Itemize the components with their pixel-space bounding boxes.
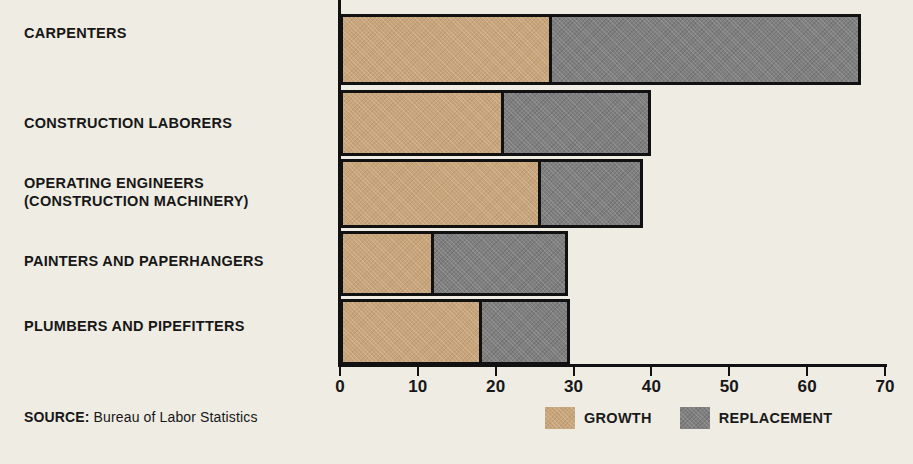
x-axis-tick-label: 10 — [408, 377, 427, 397]
stacked-bar-carpenters — [340, 14, 861, 85]
x-axis-tick-label: 0 — [335, 377, 345, 397]
source-note: SOURCE: Bureau of Labor Statistics — [24, 409, 258, 425]
plot-area: 010203040506070 — [338, 0, 887, 367]
stacked-bar-painters-and-paperhangers — [340, 231, 568, 296]
x-axis-tick — [339, 367, 341, 376]
replacement-swatch-icon — [680, 407, 710, 429]
bar-segment-growth — [343, 234, 431, 293]
x-axis-tick — [650, 367, 652, 376]
bar-segment-replacement — [549, 17, 857, 82]
bar-segment-replacement — [431, 234, 565, 293]
growth-swatch-icon — [545, 407, 575, 429]
category-label-plumbers-and-pipefitters: PLUMBERS AND PIPEFITTERS — [24, 317, 245, 335]
x-axis-tick — [573, 367, 575, 376]
x-axis-tick — [806, 367, 808, 376]
x-axis-tick-label: 20 — [486, 377, 505, 397]
legend-item-growth: GROWTH — [545, 407, 652, 429]
legend-label-growth: GROWTH — [584, 410, 652, 426]
x-axis-tick — [417, 367, 419, 376]
bar-segment-growth — [343, 17, 549, 82]
bar-segment-replacement — [479, 302, 566, 362]
legend: GROWTH REPLACEMENT — [545, 407, 832, 429]
category-label-operating-engineers: OPERATING ENGINEERS (CONSTRUCTION MACHIN… — [24, 174, 249, 210]
x-axis-tick — [495, 367, 497, 376]
bar-segment-growth — [343, 93, 501, 153]
category-label-carpenters: CARPENTERS — [24, 24, 127, 42]
source-label: SOURCE: — [24, 409, 90, 425]
bar-segment-replacement — [538, 162, 640, 225]
x-axis-tick-label: 30 — [564, 377, 583, 397]
legend-label-replacement: REPLACEMENT — [719, 410, 833, 426]
stacked-bar-construction-laborers — [340, 90, 651, 156]
x-axis-tick-label: 70 — [875, 377, 894, 397]
stacked-bar-plumbers-and-pipefitters — [340, 299, 570, 365]
bar-segment-replacement — [501, 93, 647, 153]
x-axis-tick-label: 40 — [642, 377, 661, 397]
legend-item-replacement: REPLACEMENT — [680, 407, 833, 429]
x-axis-tick-label: 60 — [798, 377, 817, 397]
x-axis-tick-label: 50 — [720, 377, 739, 397]
x-axis-tick — [884, 367, 886, 376]
bar-chart: CARPENTERS CONSTRUCTION LABORERS OPERATI… — [0, 0, 913, 464]
category-label-construction-laborers: CONSTRUCTION LABORERS — [24, 114, 232, 132]
x-axis-tick — [728, 367, 730, 376]
source-value: Bureau of Labor Statistics — [94, 409, 258, 425]
bar-segment-growth — [343, 162, 538, 225]
stacked-bar-operating-engineers — [340, 159, 643, 228]
bar-segment-growth — [343, 302, 479, 362]
category-label-painters-and-paperhangers: PAINTERS AND PAPERHANGERS — [24, 252, 264, 270]
